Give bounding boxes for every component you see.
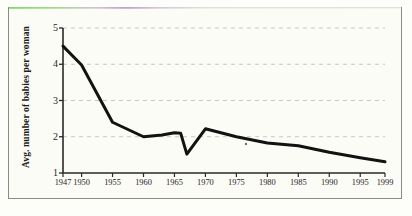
y-axis-title: Avg. number of babies per woman	[19, 22, 33, 172]
scan-speck	[245, 143, 247, 145]
chart-figure: Avg. number of babies per woman 12345 19…	[0, 0, 412, 216]
x-tick-label: 1975	[228, 179, 245, 187]
x-tick-label: 1995	[352, 179, 369, 187]
y-tick-label: 1	[53, 168, 58, 178]
x-tick-label: 1990	[321, 179, 338, 187]
y-tick-label: 5	[53, 23, 58, 33]
x-tick-label: 1950	[73, 179, 90, 187]
x-tick-label: 1955	[104, 179, 121, 187]
x-tick-label: 1960	[135, 179, 152, 187]
x-tick-label: 1985	[290, 179, 307, 187]
x-tick-label: 1947	[55, 179, 72, 187]
x-tick-label: 1970	[197, 179, 214, 187]
y-tick-label: 3	[53, 96, 58, 106]
x-tick-label: 1980	[259, 179, 276, 187]
y-tick-label: 2	[53, 132, 58, 142]
plot-area: Avg. number of babies per woman 12345 19…	[63, 28, 385, 173]
x-tick-label: 1999	[377, 179, 394, 187]
chart-canvas	[63, 28, 385, 173]
y-tick-label: 4	[53, 59, 58, 69]
x-tick-label: 1965	[166, 179, 183, 187]
data-series-line	[63, 46, 385, 162]
